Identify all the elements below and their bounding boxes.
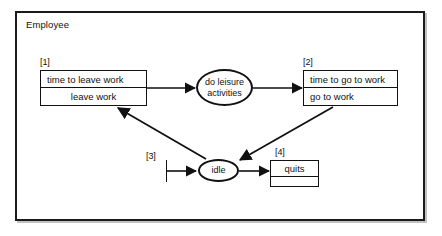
- employee-frame: [15, 11, 425, 221]
- state-box-go-to-work[interactable]: time to go to work go to work: [303, 70, 398, 106]
- state-tag-4: [4]: [275, 147, 285, 157]
- state-box-leave-work-action: leave work: [41, 88, 146, 105]
- state-box-quits-trigger: quits: [271, 161, 318, 177]
- diagram-canvas: Employee [1] [2] [3] [4] time to leave w…: [0, 0, 442, 236]
- activity-leisure-line1: do leisure: [205, 77, 244, 88]
- state-box-leave-work[interactable]: time to leave work leave work: [40, 70, 147, 106]
- initial-state-bar: [166, 160, 167, 182]
- activity-idle[interactable]: idle: [198, 159, 239, 182]
- state-tag-2: [2]: [303, 57, 313, 67]
- frame-title-label: Employee: [26, 19, 69, 30]
- state-box-leave-work-trigger: time to leave work: [41, 71, 146, 88]
- activity-do-leisure-activities[interactable]: do leisure activities: [196, 69, 253, 106]
- state-tag-1: [1]: [40, 57, 50, 67]
- activity-idle-label: idle: [211, 165, 225, 176]
- state-box-go-to-work-trigger: time to go to work: [304, 71, 397, 88]
- state-box-quits[interactable]: quits: [270, 160, 319, 187]
- state-box-go-to-work-action: go to work: [304, 88, 397, 105]
- state-tag-3: [3]: [146, 151, 156, 161]
- state-box-quits-action: [271, 177, 318, 186]
- activity-leisure-line2: activities: [207, 88, 242, 99]
